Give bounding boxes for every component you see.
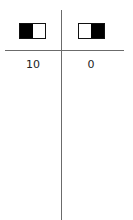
right-column-value: 0: [71, 58, 111, 71]
toggle-right-filled-icon: [78, 23, 105, 39]
horizontal-divider: [5, 50, 124, 51]
vertical-divider: [61, 10, 62, 220]
left-column-value: 10: [13, 58, 53, 71]
toggle-left-filled-icon: [19, 23, 46, 39]
